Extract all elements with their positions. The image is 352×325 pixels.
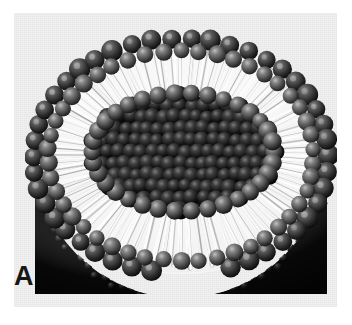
figure-plate: [14, 13, 337, 307]
inner-leaflet-headgroups: [83, 84, 284, 219]
figure-panel-a: A: [0, 0, 352, 325]
panel-label: A: [14, 263, 34, 290]
liposome-illustration: [25, 22, 337, 294]
liposome-svg: [25, 22, 337, 294]
